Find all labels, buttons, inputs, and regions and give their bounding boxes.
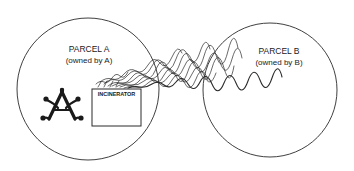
smoke-plume bbox=[96, 38, 282, 91]
stylized-a-icon bbox=[44, 90, 80, 119]
parcel-b-title: PARCEL B bbox=[258, 46, 299, 56]
parcel-a-owner: (owned by A) bbox=[66, 56, 113, 65]
parcel-a-title: PARCEL A bbox=[69, 44, 110, 54]
parcel-b-owner: (owned by B) bbox=[255, 58, 302, 67]
incinerator: INCINERATOR bbox=[92, 89, 141, 126]
parcel-b-boundary bbox=[203, 23, 337, 157]
parcel-diagram: PARCEL A (owned by A) PARCEL B (owned by… bbox=[0, 0, 354, 171]
incinerator-label: INCINERATOR bbox=[98, 91, 136, 97]
